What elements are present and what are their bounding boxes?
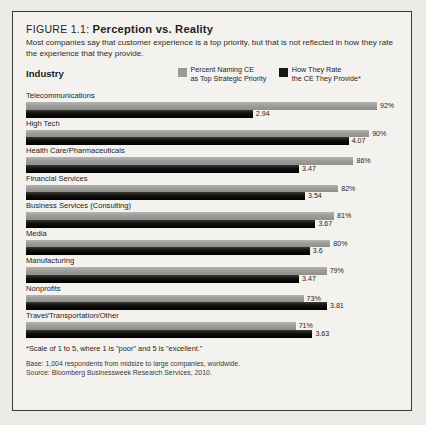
bar-percent <box>26 102 377 110</box>
chart-row-bars: 73%3.81 <box>26 295 399 311</box>
bar-value-rating: 3.67 <box>315 220 332 228</box>
chart-row-label: High Tech <box>26 119 399 130</box>
bar-track-percent: 92% <box>26 102 399 110</box>
chart-row-label: Health Care/Pharmaceuticals <box>26 146 399 157</box>
bar-percent <box>26 267 327 275</box>
chart-row-label: Media <box>26 229 399 240</box>
bar-rating <box>26 192 305 200</box>
bar-track-percent: 86% <box>26 157 399 165</box>
legend-label-percent: Percent Naming CE as Top Strategic Prior… <box>191 66 267 83</box>
bar-track-percent: 79% <box>26 267 399 275</box>
bar-track-percent: 82% <box>26 185 399 193</box>
chart-row-label: Telecommunications <box>26 91 399 102</box>
bar-track-percent: 80% <box>26 240 399 248</box>
figure-page: FIGURE 1.1: Perception vs. Reality Most … <box>0 0 426 425</box>
bar-rating <box>26 165 299 173</box>
chart-row-bars: 80%3.6 <box>26 240 399 256</box>
chart-row: Nonprofits73%3.81 <box>26 284 399 311</box>
legend-item-rating: How They Rate the CE They Provide* <box>279 66 360 83</box>
chart-row: High Tech90%4.07 <box>26 119 399 146</box>
bar-percent <box>26 130 369 138</box>
legend-label-rating-line2: the CE They Provide* <box>292 74 361 83</box>
figure-panel: FIGURE 1.1: Perception vs. Reality Most … <box>12 11 412 411</box>
bar-rating <box>26 275 299 283</box>
bar-rating <box>26 137 349 145</box>
axis-header-industry: Industry <box>26 66 178 79</box>
bar-rating <box>26 247 310 255</box>
bar-track-percent: 90% <box>26 130 399 138</box>
legend-item-percent: Percent Naming CE as Top Strategic Prior… <box>178 66 266 83</box>
footnote-scale: *Scale of 1 to 5, where 1 is "poor" and … <box>26 344 399 353</box>
chart-row: Business Services (Consulting)81%3.67 <box>26 201 399 228</box>
bar-track-rating: 3.81 <box>26 302 399 310</box>
legend-swatch-percent-icon <box>178 68 187 77</box>
legend-swatch-rating-icon <box>279 68 288 77</box>
bar-percent <box>26 185 338 193</box>
bar-track-rating: 3.67 <box>26 220 399 228</box>
chart-row: Manufacturing79%3.47 <box>26 256 399 283</box>
bar-value-rating: 3.63 <box>312 330 329 338</box>
bar-rating <box>26 220 315 228</box>
chart-row-label: Manufacturing <box>26 256 399 267</box>
bar-value-rating: 4.07 <box>349 137 366 145</box>
figure-subtitle: Most companies say that customer experie… <box>26 38 398 59</box>
chart-row-bars: 71%3.63 <box>26 322 399 338</box>
chart-row-bars: 90%4.07 <box>26 130 399 146</box>
bar-value-rating: 3.54 <box>305 192 322 200</box>
chart-row-label: Financial Services <box>26 174 399 185</box>
legend: Industry Percent Naming CE as Top Strate… <box>26 66 399 85</box>
bar-value-rating: 2.94 <box>253 110 270 118</box>
footnote-source: Source: Bloomberg Businessweek Research … <box>26 368 399 378</box>
bar-track-percent: 73% <box>26 295 399 303</box>
figure-number: FIGURE 1.1: <box>26 23 89 35</box>
chart-row-bars: 79%3.47 <box>26 267 399 283</box>
chart-row-label: Nonprofits <box>26 284 399 295</box>
legend-label-rating: How They Rate the CE They Provide* <box>292 66 361 83</box>
bar-rating <box>26 302 327 310</box>
bar-rating <box>26 330 312 338</box>
bar-percent <box>26 157 353 165</box>
chart-plot-area: Telecommunications92%2.94High Tech90%4.0… <box>26 91 399 338</box>
legend-label-percent-line2: as Top Strategic Priority <box>191 74 267 83</box>
bar-track-rating: 2.94 <box>26 110 399 118</box>
figure-title: FIGURE 1.1: Perception vs. Reality <box>26 23 399 35</box>
chart-row: Media80%3.6 <box>26 229 399 256</box>
bar-percent <box>26 212 334 220</box>
bar-track-percent: 81% <box>26 212 399 220</box>
chart-row-bars: 86%3.47 <box>26 157 399 173</box>
bar-value-rating: 3.6 <box>310 247 323 255</box>
bar-track-percent: 71% <box>26 322 399 330</box>
bar-value-rating: 3.47 <box>299 165 316 173</box>
chart-row-bars: 92%2.94 <box>26 102 399 118</box>
bar-percent <box>26 240 330 248</box>
bar-track-rating: 3.63 <box>26 330 399 338</box>
chart-row-label: Travel/Transportation/Other <box>26 311 399 322</box>
chart-row-label: Business Services (Consulting) <box>26 201 399 212</box>
bar-track-rating: 3.6 <box>26 247 399 255</box>
bar-track-rating: 4.07 <box>26 137 399 145</box>
bar-rating <box>26 110 253 118</box>
bar-track-rating: 3.47 <box>26 275 399 283</box>
bar-value-rating: 3.47 <box>299 275 316 283</box>
chart-row: Travel/Transportation/Other71%3.63 <box>26 311 399 338</box>
bar-track-rating: 3.54 <box>26 192 399 200</box>
figure-title-text: Perception vs. Reality <box>93 23 214 35</box>
footnote-base: Base: 1,004 respondents from midsize to … <box>26 359 399 369</box>
footnotes: *Scale of 1 to 5, where 1 is "poor" and … <box>26 344 399 378</box>
chart-row: Health Care/Pharmaceuticals86%3.47 <box>26 146 399 173</box>
chart-row: Telecommunications92%2.94 <box>26 91 399 118</box>
chart-row: Financial Services82%3.54 <box>26 174 399 201</box>
bar-value-rating: 3.81 <box>327 302 344 310</box>
chart-row-bars: 81%3.67 <box>26 212 399 228</box>
bar-percent <box>26 295 304 303</box>
chart-row-bars: 82%3.54 <box>26 185 399 201</box>
bar-track-rating: 3.47 <box>26 165 399 173</box>
bar-percent <box>26 322 296 330</box>
